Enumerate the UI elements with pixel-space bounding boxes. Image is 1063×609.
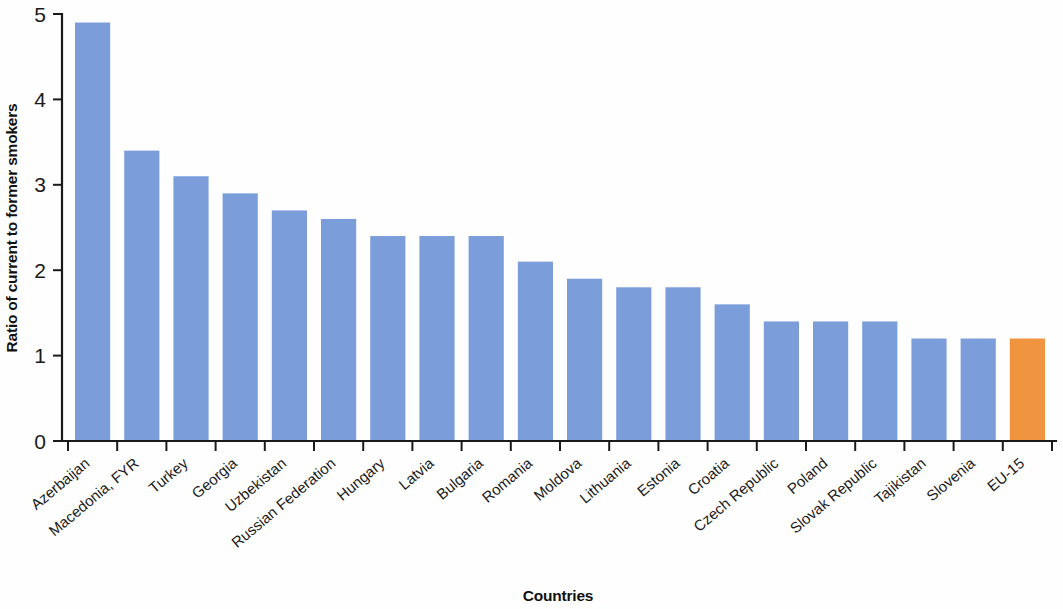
bar	[764, 321, 799, 441]
y-tick-label: 0	[34, 430, 46, 453]
bar	[419, 236, 454, 441]
bar	[321, 219, 356, 441]
bar	[469, 236, 504, 441]
bar	[911, 339, 946, 441]
y-axis-ticks: 012345	[34, 3, 62, 453]
y-tick-label: 1	[34, 344, 46, 367]
x-axis-ticks	[68, 441, 1052, 451]
x-category-label: Slovak Republic	[786, 454, 880, 536]
x-category-label: Estonia	[634, 454, 684, 500]
x-category-label: Latvia	[395, 454, 437, 493]
x-category-label: Slovenia	[923, 454, 979, 504]
y-tick-label: 4	[34, 88, 46, 111]
bar	[665, 287, 700, 441]
bar	[173, 176, 208, 441]
bar	[616, 287, 651, 441]
bar	[272, 210, 307, 441]
x-category-label: Bulgaria	[433, 454, 487, 503]
bar-series	[75, 23, 1045, 441]
bar	[961, 339, 996, 441]
bar	[813, 321, 848, 441]
bar	[518, 262, 553, 441]
y-tick-label: 3	[34, 173, 46, 196]
y-tick-label: 2	[34, 259, 46, 282]
bar-chart-figure: Ratio of current to former smokers Count…	[0, 0, 1063, 609]
x-category-label: EU-15	[984, 454, 1028, 494]
bar	[75, 23, 110, 441]
x-category-label: Moldova	[530, 454, 585, 504]
x-category-label: Romania	[478, 454, 535, 506]
y-axis-title: Ratio of current to former smokers	[3, 103, 20, 352]
x-category-label: Czech Republic	[690, 454, 782, 535]
x-category-label: Poland	[784, 454, 831, 497]
bar	[862, 321, 897, 441]
x-category-label: Hungary	[333, 454, 388, 504]
bar	[223, 193, 258, 441]
bar	[370, 236, 405, 441]
x-category-label: Tajikistan	[871, 454, 929, 507]
bar	[1010, 339, 1045, 441]
y-tick-label: 5	[34, 3, 46, 26]
x-axis-title: Countries	[523, 587, 594, 604]
chart-canvas: Ratio of current to former smokers Count…	[0, 0, 1063, 609]
x-category-label: Lithuania	[576, 454, 634, 507]
bar	[124, 151, 159, 441]
x-category-label: Macedonia, FYR	[45, 454, 142, 539]
bar	[715, 304, 750, 441]
bar	[567, 279, 602, 441]
x-axis-category-labels: AzerbaijanMacedonia, FYRTurkeyGeorgiaUzb…	[27, 454, 1027, 551]
x-category-label: Turkey	[145, 454, 191, 496]
